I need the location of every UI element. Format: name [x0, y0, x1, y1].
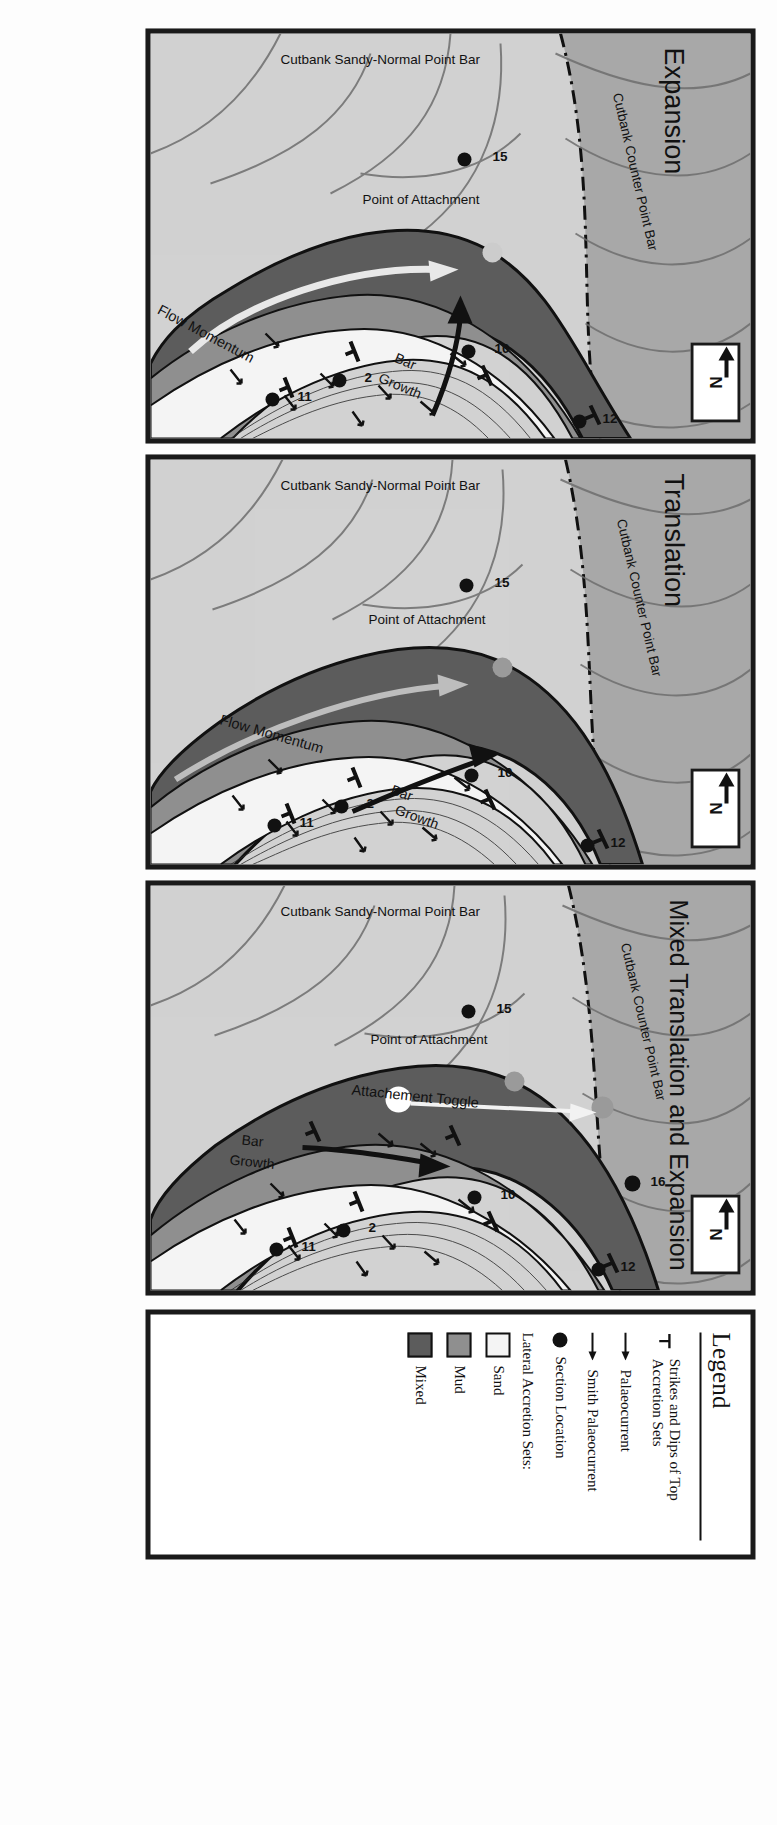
legend-label-palaeocurrent: Palaeocurrent [617, 1369, 634, 1451]
sand-swatch [486, 1332, 511, 1357]
section-label-16: 16 [650, 1173, 665, 1188]
legend-label-smith-palaeocurrent: Smith Palaeocurrent [584, 1369, 601, 1491]
legend-divider [699, 1332, 701, 1540]
legend-item-smith-palaeocurrent: Smith Palaeocurrent [584, 1332, 601, 1540]
section-label-11: 11 [299, 814, 313, 829]
section-label-12: 12 [620, 1258, 635, 1273]
section-label-11: 11 [297, 388, 311, 403]
section-label-11: 11 [301, 1238, 315, 1253]
section-label-2: 2 [366, 795, 374, 810]
legend-item-section-location: Section Location [552, 1332, 569, 1540]
north-arrow-icon [715, 1197, 737, 1231]
north-arrow-icon [715, 771, 737, 805]
north-arrow-icon [715, 345, 737, 379]
legend-swatch-mud: Mud [447, 1332, 472, 1540]
legend-box: Legend Strikes and Dips of Top Accretion… [145, 1309, 755, 1559]
panel-title: Expansion [657, 47, 688, 174]
mud-swatch [447, 1332, 472, 1357]
section-label-15: 15 [492, 148, 507, 163]
panel-group: N Expansion Cutbank Counter Point Bar Cu… [145, 0, 777, 1295]
strike-dip-symbol-icon [656, 1332, 676, 1349]
legend-label-strike-dip: Strikes and Dips of Top Accretion Sets [649, 1358, 682, 1540]
section-label-12: 12 [602, 410, 617, 425]
label-sandy-normal-point-bar: Cutbank Sandy-Normal Point Bar [280, 903, 480, 918]
filled-circle-icon [552, 1332, 567, 1347]
label-bar-growth-line1: Bar [240, 1131, 263, 1149]
north-arrow-box: N [690, 768, 740, 848]
legend-title: Legend [706, 1332, 734, 1540]
panel-expansion: N Expansion Cutbank Counter Point Bar Cu… [145, 28, 755, 443]
section-label-10: 10 [494, 340, 509, 355]
legend-label-sand: Sand [490, 1365, 507, 1395]
figure-root: N Expansion Cutbank Counter Point Bar Cu… [0, 0, 777, 1825]
legend-item-strike-dip: Strikes and Dips of Top Accretion Sets [649, 1332, 682, 1540]
legend-accretion-heading: Lateral Accretion Sets: [519, 1332, 536, 1540]
label-sandy-normal-point-bar: Cutbank Sandy-Normal Point Bar [280, 477, 480, 492]
section-label-2: 2 [364, 369, 372, 384]
section-label-15: 15 [496, 1000, 511, 1015]
section-label-10: 10 [497, 764, 512, 779]
legend-swatch-sand: Sand [486, 1332, 511, 1540]
section-label-15: 15 [494, 574, 509, 589]
mixed-swatch [408, 1332, 433, 1357]
north-arrow-box: N [690, 1194, 740, 1274]
legend-item-palaeocurrent: Palaeocurrent [617, 1332, 634, 1540]
panel-mixed-translation-and-expansion: N Mixed Translation and Expansion Cutban… [145, 880, 755, 1295]
label-sandy-normal-point-bar: Cutbank Sandy-Normal Point Bar [280, 51, 480, 66]
label-point-of-attachment: Point of Attachment [370, 1031, 487, 1046]
legend-label-mud: Mud [451, 1365, 468, 1393]
section-label-2: 2 [368, 1219, 376, 1234]
arrow-right-icon [585, 1332, 599, 1360]
arrow-right-icon [618, 1332, 632, 1360]
section-label-10: 10 [500, 1186, 515, 1201]
panel-title: Mixed Translation and Expansion [663, 899, 692, 1270]
label-point-of-attachment: Point of Attachment [362, 191, 479, 206]
legend-swatch-mixed: Mixed [408, 1332, 433, 1540]
north-arrow-box: N [690, 342, 740, 422]
legend-label-mixed: Mixed [412, 1365, 429, 1404]
panel-translation: N Translation Cutbank Counter Point Bar … [145, 454, 755, 869]
panel-title: Translation [657, 473, 688, 607]
section-label-12: 12 [610, 834, 625, 849]
legend-label-section-location: Section Location [552, 1356, 569, 1458]
label-point-of-attachment: Point of Attachment [368, 611, 485, 626]
